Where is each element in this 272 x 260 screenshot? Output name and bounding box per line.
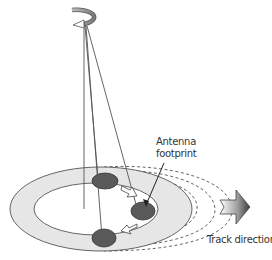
track-direction-arrow-icon	[220, 190, 250, 224]
footprint-top	[92, 173, 118, 189]
footprint-right	[131, 202, 155, 220]
antenna-footprint-label: Antenna footprint	[156, 136, 196, 160]
track-direction-label: Track direction	[207, 234, 272, 246]
rotating-arrow-icon	[72, 10, 94, 28]
conical-scan-diagram	[0, 0, 272, 260]
footprint-bottom	[92, 229, 116, 247]
antenna-footprint-label-line1: Antenna	[156, 136, 196, 148]
antenna-footprint-label-line2: footprint	[156, 148, 196, 160]
beam-lines	[84, 26, 137, 238]
